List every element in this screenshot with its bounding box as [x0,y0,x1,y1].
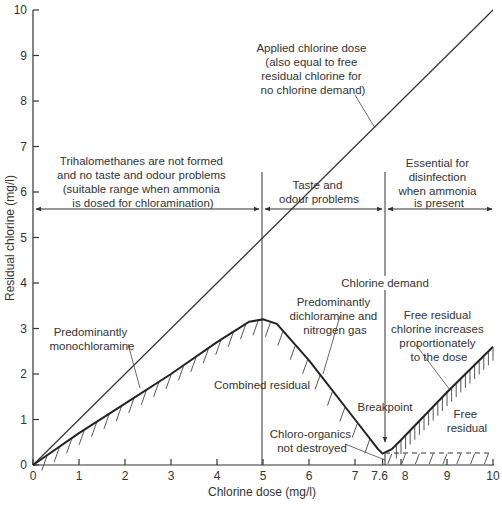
y-tick-label: 9 [20,49,27,63]
y-tick-label: 5 [20,231,27,245]
label-free-inc: Free residual chlorine increases proport… [391,309,487,363]
y-tick-label: 6 [20,185,27,199]
y-tick-label: 4 [20,276,27,290]
label-dichlor: Predominantly dichloramine and nitrogen … [290,296,381,336]
label-applied: Applied chlorine dose (also equal to fre… [256,42,369,96]
y-tick-label: 3 [20,322,27,336]
label-essential: Essential for disinfection when ammonia … [397,157,479,209]
label-free-residual: Free residual [447,408,487,434]
x-tick-label: 7 [352,469,359,483]
y-tick-label: 2 [20,367,27,381]
x-tick-label: 10 [486,469,500,483]
label-breakpoint: Breakpoint [358,401,414,413]
label-demand: Chlorine demand [341,277,429,289]
x-tick-label: 3 [168,469,175,483]
x-tick-label: 2 [122,469,129,483]
x-tick-label: 9 [444,469,451,483]
y-tick-label: 10 [14,3,28,17]
y-tick-label: 7 [20,140,27,154]
x-tick-label: 5 [260,469,267,483]
y-axis-label: Residual chlorine (mg/l) [3,175,17,301]
y-tick-label: 1 [20,413,27,427]
x-tick-label: 0 [30,469,37,483]
x-tick-label: 1 [76,469,83,483]
label-combined: Combined residual [214,379,310,391]
y-tick-label: 8 [20,94,27,108]
y-tick-label: 0 [20,458,27,472]
chart: 012345678910 012345677.68910 Applied chl… [0,0,502,508]
label-taste: Taste and odour problems [279,179,359,205]
x-tick-label: 7.6 [371,469,388,483]
x-tick-label: 8 [402,469,409,483]
label-chloro: Chloro-organics not destroyed [270,428,354,454]
x-axis-label: Chlorine dose (mg/l) [208,485,316,499]
x-tick-label: 4 [214,469,221,483]
label-thm: Trihalomethanes are not formed and no ta… [57,155,229,209]
y-axis-ticks: 012345678910 [14,3,39,472]
x-tick-label: 6 [306,469,313,483]
label-mono: Predominantly monochloramine [49,326,134,352]
